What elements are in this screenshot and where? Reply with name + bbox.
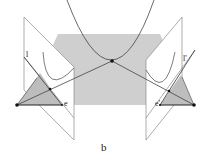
epipolar-diagram: [0, 0, 206, 160]
left-epipole-point: [61, 104, 63, 106]
right-image-point: [168, 90, 171, 93]
figure-caption: b: [101, 142, 107, 153]
right-epipole-label: e': [155, 100, 160, 108]
center-point: [110, 59, 114, 63]
right-camera-center: [192, 103, 196, 107]
left-camera-center: [15, 103, 19, 107]
left-image-point: [49, 88, 52, 91]
left-line-label: l: [26, 51, 28, 59]
right-line-label: l': [183, 55, 187, 63]
left-epipole-label: e: [64, 100, 68, 108]
